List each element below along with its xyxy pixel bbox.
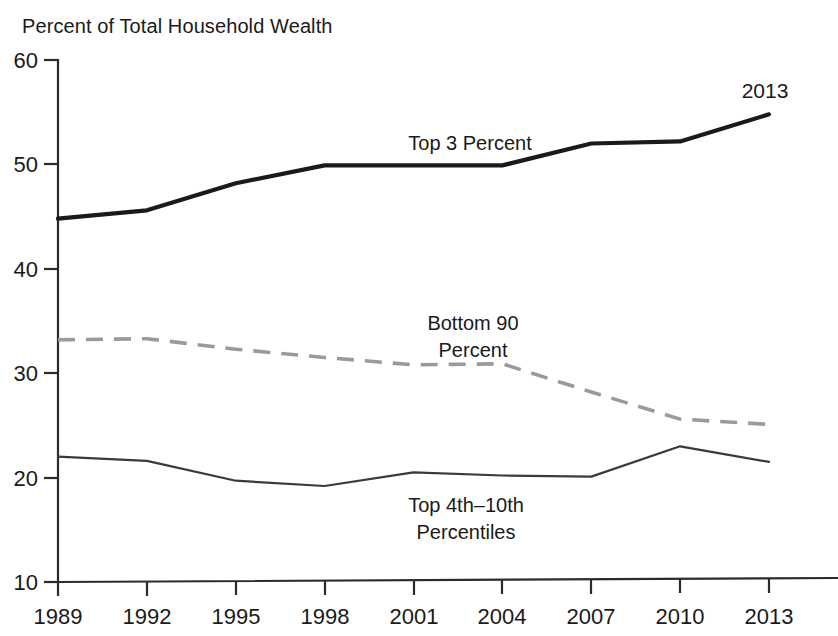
x-axis	[58, 578, 838, 582]
series-line-top-3-percent	[58, 114, 769, 218]
y-tick-marks	[44, 60, 58, 582]
y-tick-label-40: 40	[14, 257, 38, 282]
series-label-top-3-percent: Top 3 Percent	[408, 132, 532, 154]
x-tick-label-2004: 2004	[478, 604, 527, 629]
x-tick-label-2001: 2001	[390, 604, 439, 629]
x-tick-label-2010: 2010	[656, 604, 705, 629]
series-label-bottom-90-percent-line2: Percent	[439, 339, 508, 361]
y-tick-label-10: 10	[14, 570, 38, 595]
y-tick-label-20: 20	[14, 466, 38, 491]
y-tick-label-60: 60	[14, 48, 38, 73]
x-tick-label-1992: 1992	[123, 604, 172, 629]
y-tick-label-30: 30	[14, 361, 38, 386]
series-line-bottom-90-percent	[58, 339, 769, 425]
y-tick-label-50: 50	[14, 152, 38, 177]
x-tick-label-2013: 2013	[745, 604, 794, 629]
annotation-year-2013: 2013	[742, 79, 789, 102]
series-line-top-4th-10th-percentiles	[58, 446, 769, 486]
series-label-bottom-90-percent-line1: Bottom 90	[427, 312, 518, 334]
x-tick-label-1989: 1989	[34, 604, 83, 629]
x-tick-label-1998: 1998	[301, 604, 350, 629]
chart-screenshot: Percent of Total Household Wealth 60 50 …	[0, 0, 838, 636]
series-label-top-4th-10th-percentiles-line1: Top 4th–10th	[408, 494, 524, 516]
series-label-top-4th-10th-percentiles-line2: Percentiles	[417, 521, 516, 543]
line-chart: 60 50 40 30 20 10 1989 1992 1995 1998 20…	[0, 0, 838, 636]
x-tick-label-2007: 2007	[567, 604, 616, 629]
x-tick-label-1995: 1995	[212, 604, 261, 629]
